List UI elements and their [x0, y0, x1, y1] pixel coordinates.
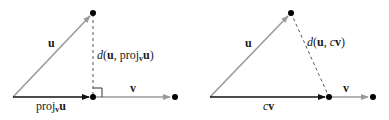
- point-u-tip-left: [90, 10, 96, 16]
- label-v-right: v: [343, 81, 349, 95]
- point-proj-left: [90, 94, 96, 100]
- point-cv-right: [326, 94, 332, 100]
- projection-diagram: u v d(u, projvu) projvu u v d(u, cv) cv: [0, 0, 389, 120]
- left-panel: u v d(u, projvu) projvu: [13, 10, 178, 114]
- point-v-tip-right: [370, 94, 376, 100]
- distance-line-right: [291, 13, 329, 97]
- point-v-tip-left: [172, 94, 178, 100]
- vector-u-right: [210, 16, 288, 97]
- vector-u-left: [13, 16, 90, 97]
- label-proj-left: projvu: [36, 99, 66, 114]
- label-u-right: u: [245, 36, 252, 50]
- point-u-tip-right: [288, 10, 294, 16]
- label-cv-right: cv: [263, 99, 274, 113]
- label-u-left: u: [48, 36, 55, 50]
- label-distance-left: d(u, projvu): [97, 48, 154, 63]
- label-v-left: v: [130, 81, 136, 95]
- label-distance-right: d(u, cv): [307, 35, 345, 49]
- right-panel: u v d(u, cv) cv: [210, 10, 376, 113]
